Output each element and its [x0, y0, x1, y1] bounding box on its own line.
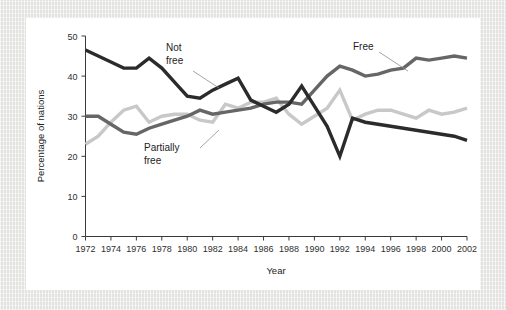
x-tick-label: 1982: [203, 244, 223, 254]
x-tick-label: 2002: [457, 244, 477, 254]
x-tick-labels: 1972197419761978198019821984198619881990…: [75, 244, 477, 254]
not-free-label-line1: Not: [166, 42, 182, 53]
x-tick-label: 1976: [126, 244, 146, 254]
figure-root: 01020304050 Percentage of nations 197219…: [0, 0, 506, 310]
x-tick-label: 1974: [101, 244, 121, 254]
x-tick-label: 1978: [152, 244, 172, 254]
x-tick-label: 1994: [355, 244, 375, 254]
y-axis-title: Percentage of nations: [35, 90, 46, 183]
partially-free-label-line1: Partially: [144, 142, 180, 153]
chart-panel: 01020304050 Percentage of nations 197219…: [26, 18, 480, 290]
x-tick-label: 1980: [177, 244, 197, 254]
x-tick-label: 1996: [381, 244, 401, 254]
free-label-line1: Free: [353, 41, 374, 52]
y-tick-label: 30: [67, 112, 77, 122]
partially-free-leader-line: [200, 130, 219, 148]
line-chart: 01020304050 Percentage of nations 197219…: [26, 18, 480, 290]
x-tick-marks: [86, 237, 468, 241]
x-axis: 1972197419761978198019821984198619881990…: [75, 237, 477, 277]
y-tick-label: 0: [72, 232, 77, 242]
partially-free-label-line2: free: [144, 155, 162, 166]
y-axis: 01020304050 Percentage of nations: [35, 32, 86, 243]
x-tick-label: 1972: [75, 244, 95, 254]
y-tick-label: 10: [67, 192, 77, 202]
x-tick-label: 1992: [330, 244, 350, 254]
y-tick-marks: [82, 36, 86, 237]
y-tick-label: 40: [67, 72, 77, 82]
y-tick-label: 20: [67, 152, 77, 162]
y-tick-labels: 01020304050: [67, 32, 77, 243]
series-line-partially-free: [86, 90, 468, 144]
x-tick-label: 1986: [254, 244, 274, 254]
x-tick-label: 1984: [228, 244, 248, 254]
series-lines: [86, 50, 468, 156]
y-tick-label: 50: [67, 32, 77, 42]
x-tick-label: 1990: [304, 244, 324, 254]
not-free-leader-line: [193, 71, 219, 88]
x-tick-label: 1988: [279, 244, 299, 254]
x-tick-label: 2000: [432, 244, 452, 254]
not-free-label-line2: free: [166, 55, 184, 66]
x-tick-label: 1998: [406, 244, 426, 254]
x-axis-title: Year: [266, 265, 285, 276]
series-line-free: [86, 56, 468, 134]
